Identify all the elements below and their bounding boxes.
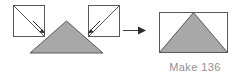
finished-unit bbox=[160, 13, 228, 53]
figure-canvas: Make 136 bbox=[0, 0, 245, 81]
caption-text: Make 136 bbox=[169, 61, 221, 73]
caption: Make 136 bbox=[150, 57, 240, 77]
becomes-arrow-head bbox=[138, 27, 146, 35]
becomes-arrow bbox=[123, 27, 146, 35]
units-before-assembly bbox=[14, 6, 120, 54]
